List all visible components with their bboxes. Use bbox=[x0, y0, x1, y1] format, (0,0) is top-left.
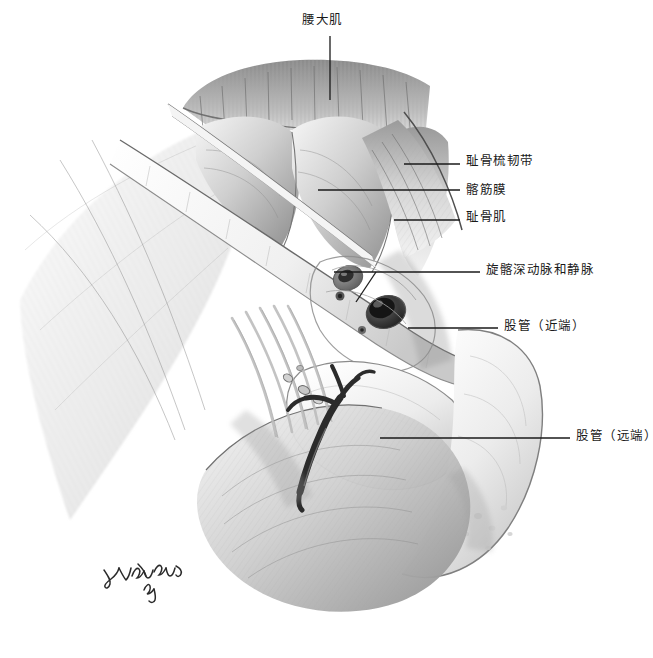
label-femoral-canal-proximal: 股管（近端） bbox=[504, 320, 585, 333]
label-iliac-fascia: 髂筋膜 bbox=[466, 184, 507, 197]
label-pectineus-muscle: 耻骨肌 bbox=[466, 211, 507, 224]
label-psoas-major: 腰大肌 bbox=[302, 14, 343, 27]
anatomical-figure: 腰大肌 耻骨梳韧带 髂筋膜 耻骨肌 旋髂深动脉和静脉 股管（近端） 股管（远端） bbox=[0, 0, 653, 658]
artist-signature bbox=[98, 556, 194, 604]
label-femoral-canal-distal: 股管（远端） bbox=[576, 430, 653, 443]
label-pectineal-ligament: 耻骨梳韧带 bbox=[466, 155, 534, 168]
label-deep-circumflex-iliac-vessels: 旋髂深动脉和静脉 bbox=[486, 264, 594, 277]
